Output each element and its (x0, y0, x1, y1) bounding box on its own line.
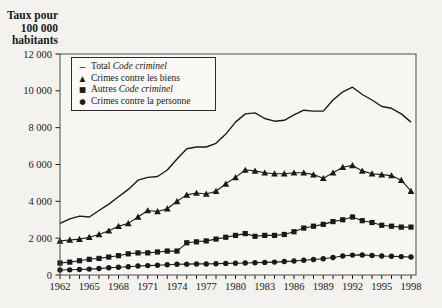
y-tick-label: 8 000 (28, 122, 52, 133)
marker-circle (340, 253, 345, 258)
legend: – Total Code criminel ▲ Crimes contre le… (71, 57, 216, 111)
marker-circle (135, 263, 140, 268)
x-tick-label: 1980 (225, 281, 246, 292)
y-tick-label: 12 000 (23, 49, 52, 60)
marker-square (174, 248, 179, 253)
x-tick-label: 1983 (254, 281, 275, 292)
marker-square (87, 257, 92, 262)
marker-square (223, 235, 228, 240)
marker-circle (116, 265, 121, 270)
marker-square (243, 231, 248, 236)
marker-circle (194, 261, 199, 266)
marker-square (350, 214, 355, 219)
crime-rate-chart: Taux pour 100 000 habitants 02 0004 0006… (0, 0, 442, 308)
marker-circle (155, 263, 160, 268)
marker-circle (233, 261, 238, 266)
x-tick-label: 1977 (196, 281, 217, 292)
marker-circle (145, 263, 150, 268)
legend-line-icon: – (77, 61, 88, 73)
marker-square (77, 258, 82, 263)
legend-item: ■ Autres Code criminel (77, 84, 211, 96)
x-tick-label: 1992 (342, 281, 363, 292)
marker-square (408, 225, 413, 230)
marker-circle (262, 260, 267, 265)
legend-square-icon: ■ (77, 84, 88, 96)
marker-circle (87, 266, 92, 271)
y-tick-label: 0 (47, 270, 52, 281)
marker-circle (321, 256, 326, 261)
marker-circle (252, 260, 257, 265)
y-tick-label: 6 000 (28, 159, 52, 170)
marker-circle (389, 254, 394, 259)
marker-square (233, 233, 238, 238)
marker-square (116, 253, 121, 258)
legend-triangle-icon: ▲ (77, 73, 88, 85)
marker-square (330, 219, 335, 224)
marker-circle (350, 252, 355, 257)
y-tick-label: 10 000 (23, 85, 52, 96)
marker-square (67, 260, 72, 265)
marker-square (213, 236, 218, 241)
marker-square (252, 234, 257, 239)
marker-circle (379, 253, 384, 258)
marker-square (369, 220, 374, 225)
marker-circle (408, 254, 413, 259)
marker-circle (301, 258, 306, 263)
x-tick-label: 1974 (167, 281, 189, 292)
y-tick-label: 4 000 (28, 196, 52, 207)
marker-circle (165, 262, 170, 267)
marker-circle (311, 257, 316, 262)
x-tick-label: 1986 (284, 281, 305, 292)
legend-item-label: Autres Code criminel (91, 84, 173, 96)
legend-item: ▲ Crimes contre les biens (77, 73, 211, 85)
marker-square (360, 218, 365, 223)
legend-circle-icon: ● (77, 96, 88, 108)
marker-square (194, 239, 199, 244)
marker-square (321, 222, 326, 227)
x-tick-label: 1998 (401, 281, 422, 292)
x-tick-label: 1971 (137, 281, 158, 292)
marker-square (96, 256, 101, 261)
marker-square (145, 250, 150, 255)
x-tick-label: 1968 (108, 281, 129, 292)
marker-square (135, 250, 140, 255)
marker-circle (223, 261, 228, 266)
marker-square (379, 223, 384, 228)
marker-circle (291, 258, 296, 263)
y-tick-label: 2 000 (28, 233, 52, 244)
marker-circle (243, 260, 248, 265)
marker-circle (360, 252, 365, 257)
legend-item-label: Crimes contre les biens (91, 73, 180, 85)
legend-item-label: Total Code criminel (91, 61, 167, 73)
marker-square (301, 225, 306, 230)
legend-item: ● Crimes contre la personne (77, 96, 211, 108)
marker-circle (77, 267, 82, 272)
x-tick-label: 1995 (371, 281, 392, 292)
marker-square (399, 225, 404, 230)
marker-circle (184, 261, 189, 266)
chart-canvas: 02 0004 0006 0008 00010 00012 0001962196… (0, 0, 442, 308)
marker-circle (204, 261, 209, 266)
marker-square (204, 238, 209, 243)
marker-square (340, 217, 345, 222)
marker-square (165, 248, 170, 253)
marker-circle (106, 265, 111, 270)
marker-circle (126, 264, 131, 269)
marker-circle (67, 267, 72, 272)
legend-item-label: Crimes contre la personne (91, 96, 190, 108)
marker-circle (282, 259, 287, 264)
legend-item: – Total Code criminel (77, 61, 211, 73)
marker-circle (330, 255, 335, 260)
marker-circle (213, 261, 218, 266)
marker-square (126, 251, 131, 256)
marker-circle (174, 262, 179, 267)
marker-square (291, 229, 296, 234)
marker-circle (399, 254, 404, 259)
marker-square (389, 224, 394, 229)
marker-circle (272, 259, 277, 264)
marker-square (184, 240, 189, 245)
marker-circle (369, 253, 374, 258)
x-tick-label: 1965 (79, 281, 100, 292)
marker-square (272, 233, 277, 238)
marker-square (262, 233, 267, 238)
